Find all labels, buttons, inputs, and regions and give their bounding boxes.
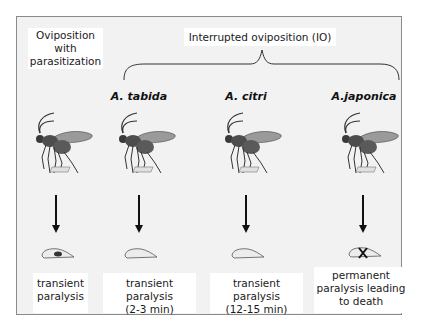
outcome-line: transient paralysis (103, 277, 196, 303)
arrow-down-icon (242, 195, 250, 233)
outcome-label: permanent paralysis leading to death (314, 267, 408, 313)
outcome-label: transient paralysis (12-15 min) (210, 273, 303, 313)
larva-icon (232, 249, 264, 258)
outcome-line: (2-3 min) (103, 303, 196, 316)
outcome-line: (12-15 min) (210, 303, 303, 316)
larva-dead-icon (349, 248, 381, 258)
outcome-line: paralysis leading (314, 282, 408, 295)
outcome-line: transient (33, 277, 88, 290)
outcome-line: transient paralysis (210, 277, 303, 303)
outcome-line: paralysis (33, 290, 88, 303)
arrow-down-icon (359, 195, 367, 233)
wasp-icon (342, 113, 398, 173)
wasp-icon (36, 113, 92, 173)
arrow-down-icon (135, 195, 143, 233)
wasp-icon (225, 113, 281, 173)
larva-icon (125, 249, 157, 258)
arrow-down-icon (52, 195, 60, 233)
outcome-label: transient paralysis (33, 273, 88, 313)
larva-parasitized-icon (42, 249, 74, 258)
outcome-label: transient paralysis (2-3 min) (103, 273, 196, 313)
outcome-line: to death (314, 295, 408, 308)
outcome-line: permanent (314, 269, 408, 282)
wasp-icon (119, 113, 175, 173)
